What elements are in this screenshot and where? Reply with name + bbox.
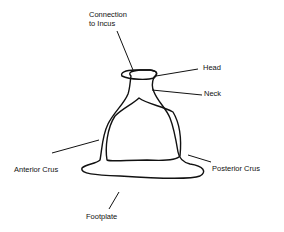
label-neck: Neck: [204, 89, 221, 98]
label-head: Head: [203, 63, 221, 72]
stapes-outline: [82, 70, 204, 178]
label-connection-line1: Connection: [89, 10, 127, 19]
pointer-head: [156, 69, 198, 76]
pointer-anterior: [52, 140, 99, 153]
label-connection-line2: to Incus: [89, 19, 127, 28]
pointer-neck: [152, 90, 202, 95]
stapes-head: [122, 70, 157, 79]
label-anterior-crus: Anterior Crus: [14, 165, 58, 174]
stapes-opening: [106, 98, 180, 161]
pointer-connection: [117, 31, 133, 70]
label-posterior-crus: Posterior Crus: [212, 164, 260, 173]
stapes-drawing: [0, 0, 284, 232]
label-footplate: Footplate: [86, 212, 117, 221]
pointer-footplate: [109, 192, 119, 209]
label-connection: Connection to Incus: [89, 10, 127, 28]
pointer-posterior: [188, 155, 211, 162]
